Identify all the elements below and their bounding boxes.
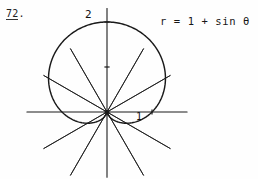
polar-plot [0,0,258,179]
polar-origin-marker [104,110,109,114]
pole-dot [104,110,109,114]
worksheet-page: 72. r = 1 + sin θ 2 1 [0,0,258,179]
